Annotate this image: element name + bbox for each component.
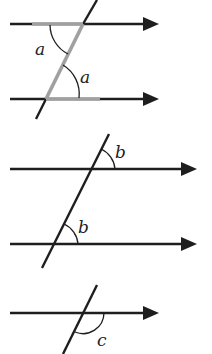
arrow-icon xyxy=(181,237,197,251)
angle-label-b-top: b xyxy=(115,142,126,162)
arrow-icon xyxy=(143,92,159,106)
angle-label-a-top: a xyxy=(35,39,45,59)
arrow-icon xyxy=(143,306,159,320)
angle-label-a-bottom: a xyxy=(80,67,90,87)
angle-arc-a-top xyxy=(50,25,68,54)
transversal-bottom-end xyxy=(36,99,46,119)
figure-corresponding-angles: b b xyxy=(10,134,197,268)
transversal xyxy=(42,134,109,268)
figure-single-line-angle: c xyxy=(10,285,159,354)
transversal-top-end xyxy=(83,0,97,24)
angle-arc-b-top xyxy=(101,149,115,169)
transversal xyxy=(63,285,97,354)
parallel-lines-diagram: a a b b c xyxy=(0,0,212,354)
arrow-icon xyxy=(143,17,159,31)
figure-alternate-angles: a a xyxy=(10,0,159,119)
angle-label-b-bottom: b xyxy=(78,217,89,237)
angle-arc-a-bottom xyxy=(63,65,79,98)
angle-label-c: c xyxy=(97,330,107,350)
angle-arc-b-bottom xyxy=(64,224,78,244)
arrow-icon xyxy=(181,162,197,176)
